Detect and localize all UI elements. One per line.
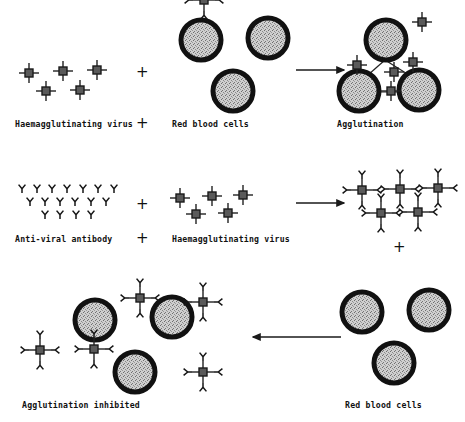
antibody-row-3 <box>42 211 95 219</box>
row1-plus-operator-label: + <box>136 116 149 131</box>
label-row1-agglutination: Agglutination <box>337 120 404 128</box>
label-row3-red-blood-cells: Red blood cells <box>345 401 422 409</box>
row2-antibody-group <box>19 185 118 219</box>
row2-plus-operator-label: + <box>136 231 149 246</box>
label-row2-haemagglutinating-virus: Haemagglutinating virus <box>172 235 290 243</box>
label-row1-haemagglutinating-virus: Haemagglutinating virus <box>15 120 133 128</box>
row1-free-virus-group <box>19 60 107 101</box>
label-row1-red-blood-cells: Red blood cells <box>172 120 249 128</box>
row1-red-blood-cell-group <box>181 18 288 111</box>
antibody-row-1 <box>19 185 118 193</box>
row2-free-virus-group <box>170 185 253 224</box>
haemagglutination-inhibition-diagram <box>0 0 465 422</box>
antibody-row-2 <box>27 198 110 206</box>
row3-red-blood-cell-group <box>342 290 449 383</box>
row1-agglutination-cluster <box>339 12 439 111</box>
row2-plus-operator-upper: + <box>136 197 149 212</box>
row1-plus-operator-upper: + <box>136 65 149 80</box>
row2-neutralised-virus-group <box>343 169 458 233</box>
label-row2-anti-viral-antibody: Anti-viral antibody <box>15 235 112 243</box>
label-row3-agglutination-inhibited: Agglutination inhibited <box>22 401 140 409</box>
row2-product-plus-operator: + <box>393 240 406 255</box>
